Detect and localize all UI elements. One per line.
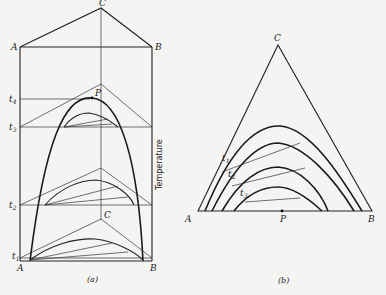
top-triangle-sides <box>20 8 152 47</box>
label-c-top: C <box>99 0 106 8</box>
label-t3: t3 <box>9 122 17 133</box>
label-c-inner: C <box>104 210 111 220</box>
curve-t3 <box>64 113 118 127</box>
section-t3 <box>20 84 152 127</box>
label-a-top: A <box>10 42 18 52</box>
label-t1: t1 <box>12 251 19 262</box>
label-a-bottom: A <box>16 263 24 273</box>
label-b: B <box>367 214 375 224</box>
ternary-phase-diagram: C A B P C A B t4 t3 t2 t1 Temperature (a… <box>0 0 386 295</box>
tie-line <box>45 197 128 205</box>
caption-a: (a) <box>87 275 98 284</box>
label-t2: t2 <box>228 169 236 180</box>
plait-point-p <box>91 97 94 100</box>
label-b-bottom: B <box>149 263 157 273</box>
label-t2: t2 <box>9 200 17 211</box>
plait-point-p <box>281 210 284 213</box>
tie-line-t2 <box>232 168 305 186</box>
label-b-top: B <box>154 42 162 52</box>
figure-a: C A B P C A B t4 t3 t2 t1 Temperature (a… <box>9 0 164 284</box>
label-c: C <box>274 33 281 43</box>
figure-b: C A B P t1 t2 t3 (b) <box>184 33 375 285</box>
binodal-t3 <box>234 187 322 211</box>
label-p: P <box>94 88 102 98</box>
caption-b: (b) <box>278 276 289 285</box>
tie-line <box>30 252 128 260</box>
tie-line-t3 <box>245 198 300 202</box>
binodal-dome <box>30 98 143 261</box>
label-t3: t3 <box>240 188 248 199</box>
label-a: A <box>184 214 192 224</box>
label-p: P <box>279 214 287 224</box>
binodal-t2 <box>222 167 328 211</box>
temperature-axis-label: Temperature <box>155 139 164 191</box>
label-t4: t4 <box>9 94 17 105</box>
